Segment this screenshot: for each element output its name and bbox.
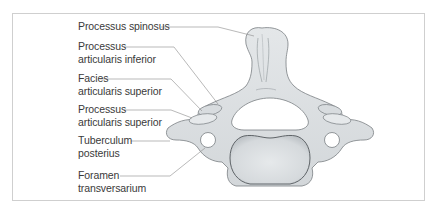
label-line: transversarium — [78, 182, 146, 195]
label-line: Facies — [78, 72, 162, 85]
label-line: articularis inferior — [78, 53, 156, 66]
label-tuberculum-posterius: Tuberculum posterius — [78, 134, 132, 159]
label-facies-articularis-superior: Facies articularis superior — [78, 72, 162, 97]
label-line: articularis superior — [78, 116, 162, 129]
label-line: Processus spinosus — [78, 20, 170, 33]
left-foramen-transversarium — [201, 133, 216, 148]
label-line: articularis superior — [78, 85, 162, 98]
label-line: Processus — [78, 40, 156, 53]
vertebra-illustration — [0, 0, 439, 202]
label-processus-articularis-inferior: Processus articularis inferior — [78, 40, 156, 65]
vertebral-body — [230, 135, 310, 184]
label-foramen-transversarium: Foramen transversarium — [78, 169, 146, 194]
label-line: posterius — [78, 147, 132, 160]
label-processus-articularis-superior: Processus articularis superior — [78, 103, 162, 128]
label-line: Tuberculum — [78, 134, 132, 147]
label-line: Foramen — [78, 169, 146, 182]
right-foramen-transversarium — [325, 133, 340, 148]
label-processus-spinosus: Processus spinosus — [78, 20, 170, 33]
leader-processus-spinosus — [161, 27, 254, 36]
label-line: Processus — [78, 103, 162, 116]
